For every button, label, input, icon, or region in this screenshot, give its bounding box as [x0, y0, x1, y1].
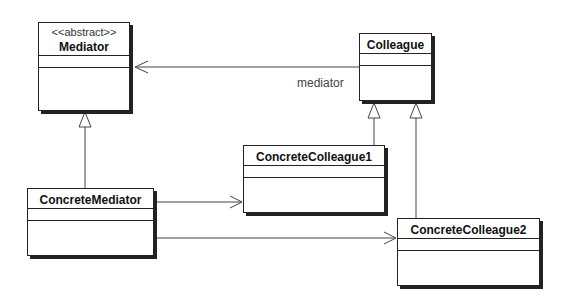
- class-concrete-colleague2[interactable]: ConcreteColleague2: [397, 218, 540, 286]
- class-name: ConcreteMediator: [28, 189, 153, 208]
- operations-compartment: [360, 65, 431, 66]
- attributes-compartment: [244, 165, 384, 177]
- attributes-compartment: [28, 208, 153, 220]
- class-colleague[interactable]: Colleague: [359, 33, 432, 101]
- operations-compartment: [398, 250, 539, 251]
- class-mediator[interactable]: <<abstract>> Mediator: [38, 22, 130, 111]
- stereotype-label: <<abstract>>: [39, 23, 129, 38]
- attributes-compartment: [360, 53, 431, 65]
- operations-compartment: [28, 220, 153, 221]
- attributes-compartment: [398, 238, 539, 250]
- class-name: ConcreteColleague2: [398, 219, 539, 238]
- class-concrete-colleague1[interactable]: ConcreteColleague1: [243, 145, 385, 213]
- class-concrete-mediator[interactable]: ConcreteMediator: [27, 188, 154, 256]
- class-name: Mediator: [39, 38, 129, 55]
- operations-compartment: [39, 67, 129, 68]
- class-name: ConcreteColleague1: [244, 146, 384, 165]
- role-label-mediator: mediator: [297, 76, 344, 90]
- attributes-compartment: [39, 55, 129, 67]
- operations-compartment: [244, 177, 384, 178]
- class-name: Colleague: [360, 34, 431, 53]
